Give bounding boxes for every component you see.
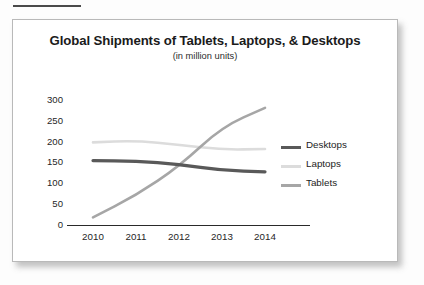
legend-swatch-icon [281,165,301,168]
chart-card: Global Shipments of Tablets, Laptops, & … [12,19,398,262]
series-line-desktops [93,161,265,172]
legend-label: Laptops [306,158,341,169]
legend-label: Desktops [306,139,347,150]
top-divider-rule [13,5,81,7]
plot-area: 050100150200250300 20102011201220132014 … [13,20,399,263]
series-line-tablets [93,108,265,218]
screenshot-page: Global Shipments of Tablets, Laptops, & … [0,0,424,285]
legend-swatch-icon [281,184,301,187]
legend-swatch-icon [281,146,301,150]
legend-label: Tablets [306,177,337,188]
series-line-laptops [93,141,265,149]
